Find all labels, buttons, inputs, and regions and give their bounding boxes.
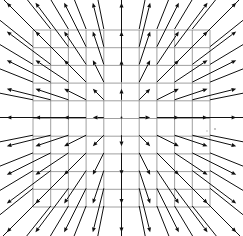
vector-arrow — [121, 117, 123, 119]
vector-arrow-head — [147, 31, 151, 36]
vector-arrow-shaft — [38, 188, 68, 228]
vector-arrow-head — [147, 3, 151, 8]
vector-arrow-head — [120, 89, 124, 94]
vector-arrow-head — [203, 60, 208, 64]
scan-speck — [214, 128, 216, 130]
vector-arrow-shaft — [38, 0, 69, 29]
vector-arrow-shaft — [192, 171, 232, 201]
vector-arrow-shaft — [192, 34, 232, 64]
vector-arrow-shaft — [95, 153, 104, 171]
vector-arrow-head — [35, 88, 40, 92]
vector-arrow-shaft — [66, 0, 86, 29]
vector-arrow-shaft — [139, 92, 147, 100]
vector-arrow-head — [120, 170, 124, 175]
vector-arrow-head — [231, 143, 236, 147]
vector-arrow-head — [7, 88, 12, 92]
vector-arrow-head — [35, 60, 40, 64]
vector-arrow-shaft — [157, 0, 177, 29]
vector-arrow-shaft — [157, 91, 175, 100]
vector-arrow-shaft — [10, 206, 51, 236]
vector-arrow-head — [175, 199, 179, 204]
vector-arrow-shaft — [67, 171, 86, 200]
quiver-figure — [0, 0, 243, 236]
vector-arrow-head — [92, 3, 96, 8]
vector-arrow-shaft — [175, 0, 206, 29]
vector-arrow-shaft — [39, 153, 68, 172]
vector-arrow-shaft — [96, 92, 104, 100]
vector-arrow-shaft — [157, 206, 177, 236]
vector-arrow-shaft — [67, 63, 86, 82]
vector-arrow-head — [147, 227, 151, 232]
vector-arrow-shaft — [66, 188, 86, 228]
speck-layer — [206, 128, 216, 132]
vector-arrow-shaft — [175, 206, 206, 236]
vector-arrow-head — [203, 143, 208, 147]
vector-arrow-shaft — [139, 153, 148, 171]
vector-arrow-shaft — [10, 171, 50, 201]
vector-arrow-head — [120, 142, 124, 147]
vector-arrow-head — [120, 199, 124, 204]
vector-arrow-shaft — [157, 153, 176, 172]
vector-arrow-head — [92, 227, 96, 232]
vector-arrow-head — [92, 199, 96, 204]
vector-arrow-shaft — [157, 35, 176, 64]
vector-arrow-shaft — [192, 153, 232, 173]
vector-arrow-shaft — [157, 188, 177, 228]
vector-arrow-shaft — [38, 6, 68, 46]
vector-arrow-shaft — [175, 153, 204, 172]
quiver-plot-canvas — [0, 0, 243, 236]
vector-arrow-shaft — [175, 171, 205, 201]
vector-arrow-shaft — [10, 34, 50, 64]
vector-arrow-shaft — [67, 35, 86, 64]
scan-speck — [206, 130, 208, 132]
vector-arrow-head — [64, 31, 68, 36]
vector-arrow-head — [35, 143, 40, 147]
vector-arrow-head — [147, 199, 151, 204]
vector-arrow-head — [231, 88, 236, 92]
vector-arrow-shaft — [39, 171, 69, 201]
vector-arrow-shaft — [67, 153, 86, 172]
vector-arrow-shaft — [38, 206, 69, 236]
vector-arrow-head — [64, 199, 68, 204]
vector-arrow-shaft — [192, 206, 233, 236]
vector-arrow-shaft — [11, 153, 51, 173]
vector-arrow-head — [175, 31, 179, 36]
vector-arrow-shaft — [157, 171, 176, 200]
vector-arrow-shaft — [175, 6, 205, 46]
vector-arrow-head — [203, 88, 208, 92]
vector-arrow-head — [7, 116, 12, 120]
vector-arrow-shaft — [66, 206, 86, 236]
vector-arrow-head — [7, 143, 12, 147]
vector-arrow-shaft — [175, 188, 205, 228]
vector-arrow-head — [92, 31, 96, 36]
vector-arrow-shaft — [139, 64, 148, 82]
vector-arrow-shaft — [95, 64, 104, 82]
vector-arrow-shaft — [157, 63, 176, 82]
vector-arrow-shaft — [157, 7, 177, 47]
vector-arrow-shaft — [66, 7, 86, 47]
vector-arrow-head — [120, 228, 124, 233]
vector-arrow-layer — [0, 0, 243, 236]
vector-arrow-shaft — [68, 91, 86, 100]
